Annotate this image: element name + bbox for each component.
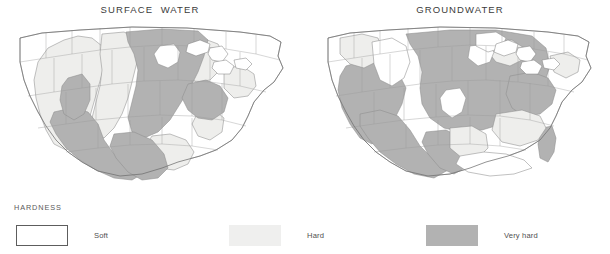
legend-swatch-hard <box>229 225 281 246</box>
map-groundwater <box>310 16 610 196</box>
zone-soft-gulfcoast-gw <box>456 152 532 176</box>
groundwater-fills <box>328 27 591 178</box>
legend-label-very-hard: Very hard <box>504 231 538 240</box>
map-title-groundwater: GROUNDWATER <box>310 4 610 15</box>
surface-water-fills <box>20 27 283 180</box>
water-hardness-figure: SURFACE WATER GROUNDWATER <box>0 0 610 254</box>
map-title-surface-water: SURFACE WATER <box>0 4 300 15</box>
legend-swatch-soft <box>16 225 68 246</box>
map-surface-water <box>2 16 302 196</box>
legend-label-soft: Soft <box>94 231 108 240</box>
legend: HARDNESS Soft Hard Very hard <box>14 203 604 251</box>
legend-title: HARDNESS <box>14 203 62 212</box>
legend-label-hard: Hard <box>307 231 324 240</box>
legend-swatch-very-hard <box>426 225 478 246</box>
